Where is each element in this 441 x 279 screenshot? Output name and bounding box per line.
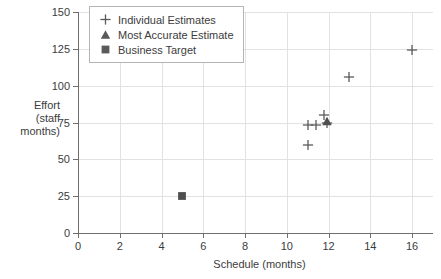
legend-entry-label: Business Target [118, 44, 196, 56]
legend-entry[interactable]: Most Accurate Estimate [97, 27, 234, 42]
legend-entry-label: Most Accurate Estimate [118, 29, 234, 41]
legend-entry[interactable]: Individual Estimates [97, 12, 234, 27]
legend-plus-icon [97, 14, 113, 25]
x-axis-tick-label: 10 [281, 240, 293, 252]
y-axis-title-line: Effort [0, 99, 60, 112]
scatter-chart-figure: 0255075100125150 0246810121416 Effort(st… [0, 0, 441, 279]
x-axis-title: Schedule (months) [0, 258, 441, 270]
y-axis-title-line: months) [0, 125, 60, 138]
legend-entry-label: Individual Estimates [118, 14, 216, 26]
x-axis-title-text: Schedule (months) [213, 258, 305, 270]
legend-square-icon [97, 45, 113, 54]
y-axis-title-line: (staff [0, 112, 60, 125]
x-axis-tick-label: 14 [364, 240, 376, 252]
x-axis-tick-label: 6 [200, 240, 206, 252]
chart-legend: Individual EstimatesMost Accurate Estima… [89, 6, 244, 63]
legend-entry[interactable]: Business Target [97, 42, 234, 57]
x-axis-tick-label: 4 [158, 240, 164, 252]
x-axis-tick-label: 0 [75, 240, 81, 252]
x-axis-tick-label: 8 [242, 240, 248, 252]
x-axis-tick-label: 2 [117, 240, 123, 252]
legend-triangle-icon [97, 29, 113, 40]
x-axis-tick-label: 12 [322, 240, 334, 252]
x-axis-tick-label: 16 [406, 240, 418, 252]
y-axis-title: Effort(staffmonths) [0, 99, 60, 138]
